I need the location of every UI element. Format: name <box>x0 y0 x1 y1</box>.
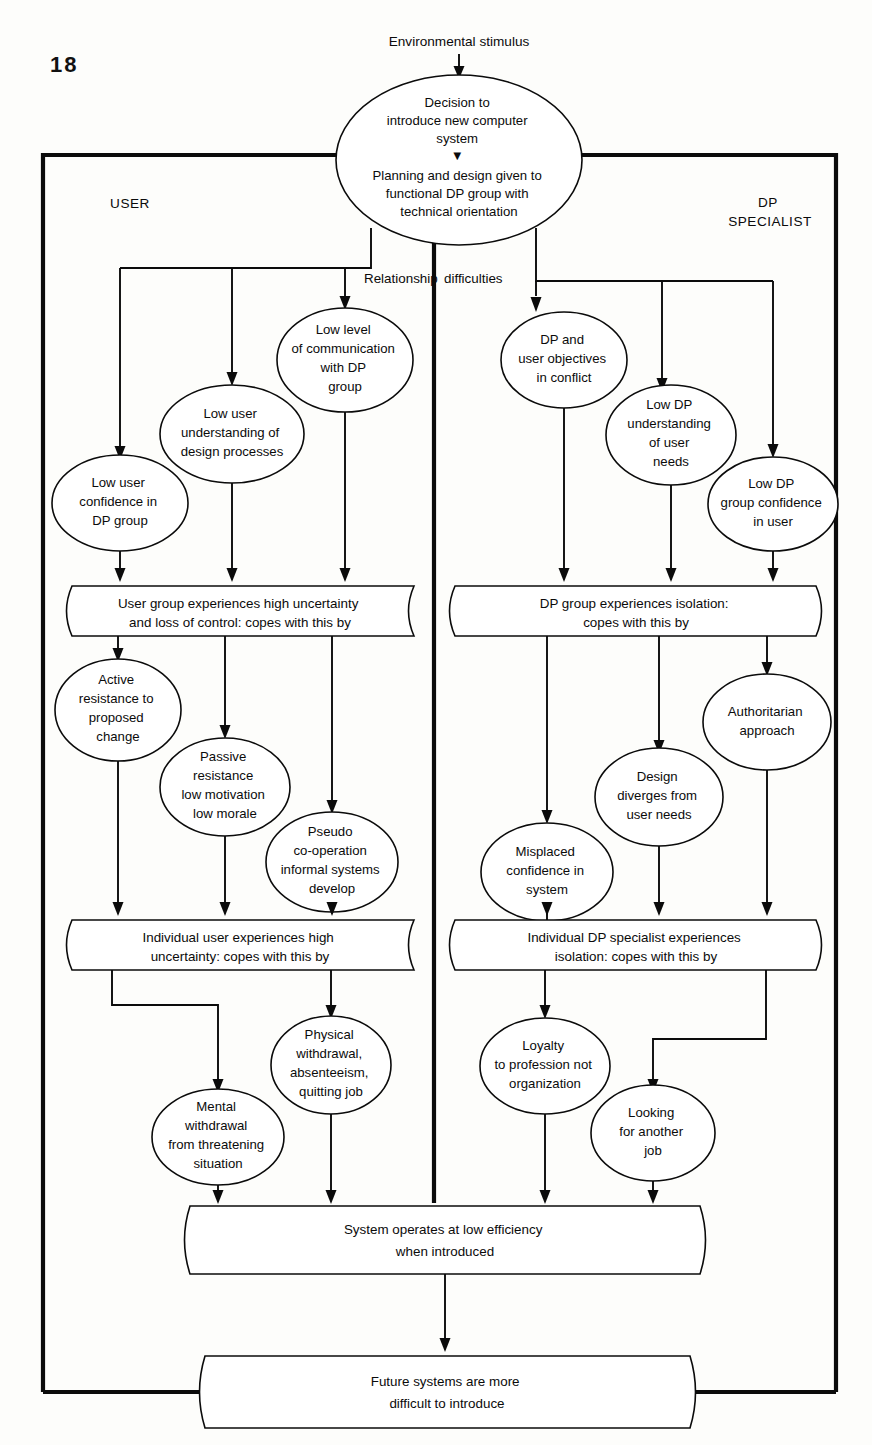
column-label-user: USER <box>110 196 150 211</box>
bar-future-systems <box>200 1356 696 1428</box>
edge-label-relationship: Relationship <box>364 271 438 286</box>
node-authoritarian-approach <box>703 674 831 770</box>
flow-diagram-canvas: 18 Environmental stimulus Decision to in… <box>0 0 872 1445</box>
connector-system-to-future <box>440 1274 451 1352</box>
bar-system-operates <box>185 1206 706 1274</box>
page-number: 18 <box>50 52 78 77</box>
edge-label-difficulties: difficulties <box>444 271 503 286</box>
environmental-stimulus-label: Environmental stimulus <box>389 34 530 49</box>
column-label-dp-specialist: DP SPECIALIST <box>728 195 812 229</box>
flow-diagram-page: 18 Environmental stimulus Decision to in… <box>0 0 872 1445</box>
